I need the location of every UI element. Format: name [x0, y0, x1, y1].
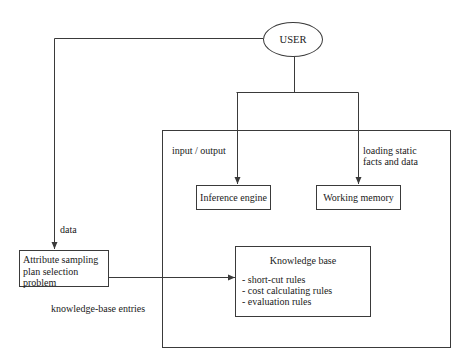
attribute-line-1: Attribute sampling	[23, 254, 98, 266]
knowledge-base-node: Knowledge base - short-cut rules - cost …	[235, 246, 371, 317]
inference-engine-label: Inference engine	[200, 192, 267, 203]
input-output-label: input / output	[172, 145, 226, 156]
user-label: USER	[280, 34, 307, 45]
knowledge-base-list: - short-cut rules - cost calculating rul…	[242, 274, 332, 307]
kb-item: - evaluation rules	[242, 296, 332, 307]
kb-item: - short-cut rules	[242, 274, 332, 285]
attribute-sampling-node: Attribute sampling plan selection proble…	[19, 250, 109, 287]
knowledge-base-entries-label: knowledge-base entries	[51, 303, 145, 314]
attribute-line-2: plan selection	[23, 266, 98, 278]
working-memory-label: Working memory	[323, 192, 394, 203]
working-memory-node: Working memory	[316, 185, 401, 210]
inference-engine-node: Inference engine	[196, 185, 271, 210]
loading-static-line-2: facts and data	[363, 156, 418, 167]
knowledge-base-title: Knowledge base	[236, 255, 370, 266]
user-to-attribute-arrow	[55, 39, 264, 250]
loading-static-label: loading static facts and data	[363, 145, 418, 167]
data-label: data	[60, 224, 77, 235]
kb-item: - cost calculating rules	[242, 285, 332, 296]
loading-static-line-1: loading static	[363, 145, 418, 156]
attribute-line-3: problem	[23, 277, 98, 289]
user-node: USER	[263, 22, 323, 57]
